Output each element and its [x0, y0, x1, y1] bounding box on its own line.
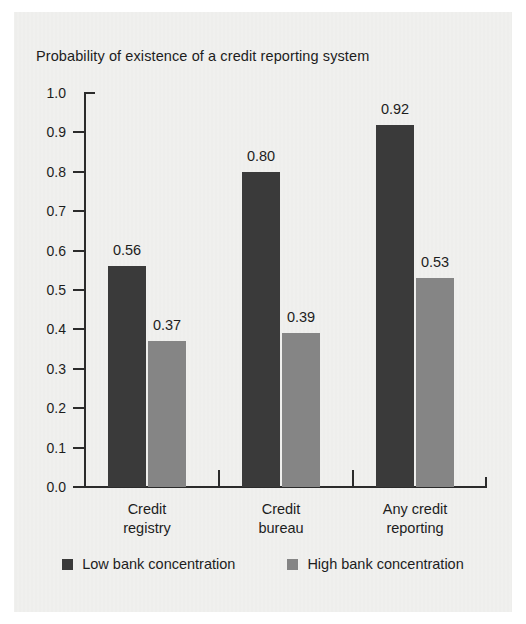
category-label-line: Credit	[258, 500, 303, 519]
category-label-line: Any credit	[383, 500, 447, 519]
y-axis-tick	[73, 486, 84, 488]
y-axis-tick	[73, 447, 84, 449]
y-axis-tick	[73, 407, 84, 409]
bar[interactable]	[416, 278, 454, 487]
legend-item-high[interactable]: High bank concentration	[287, 556, 463, 572]
bar[interactable]	[242, 172, 280, 487]
y-axis-tick-label: 0.7	[47, 203, 66, 219]
bar[interactable]	[108, 266, 146, 487]
category-label: Creditbureau	[258, 500, 303, 538]
bar-value-label: 0.39	[287, 309, 315, 325]
bar-value-label: 0.92	[381, 101, 409, 117]
legend-label-low: Low bank concentration	[82, 556, 235, 572]
y-axis-tick-label: 0.2	[47, 400, 66, 416]
category-label: Any creditreporting	[383, 500, 447, 538]
legend-label-high: High bank concentration	[307, 556, 463, 572]
bar-value-label: 0.80	[247, 148, 275, 164]
y-axis-tick-label: 0.0	[47, 479, 66, 495]
legend-swatch-high-icon	[287, 559, 298, 570]
y-axis-tick-label: 1.0	[47, 85, 66, 101]
y-axis-tick-label: 0.5	[47, 282, 66, 298]
y-axis-tick	[73, 131, 84, 133]
bar[interactable]	[282, 333, 320, 487]
category-label-line: reporting	[383, 519, 447, 538]
y-axis-tick	[73, 368, 84, 370]
y-axis-tick-label: 0.6	[47, 243, 66, 259]
category-label-line: registry	[123, 519, 171, 538]
legend-item-low[interactable]: Low bank concentration	[62, 556, 235, 572]
y-axis-tick-label: 0.3	[47, 361, 66, 377]
y-axis-tick-label: 0.4	[47, 321, 66, 337]
bar[interactable]	[376, 125, 414, 487]
category-label: Creditregistry	[123, 500, 171, 538]
y-axis-tick	[73, 250, 84, 252]
chart-legend: Low bank concentration High bank concent…	[0, 556, 526, 572]
y-axis-tick	[73, 328, 84, 330]
y-axis-tick	[73, 289, 84, 291]
bar-value-label: 0.37	[153, 317, 181, 333]
y-axis-tick-label: 0.9	[47, 124, 66, 140]
legend-swatch-low-icon	[62, 559, 73, 570]
bar-value-label: 0.56	[113, 242, 141, 258]
category-label-line: bureau	[258, 519, 303, 538]
y-axis-tick	[73, 210, 84, 212]
bar[interactable]	[148, 341, 186, 487]
y-axis-tick-label: 0.8	[47, 164, 66, 180]
plot-area	[84, 93, 486, 487]
chart-title: Probability of existence of a credit rep…	[36, 48, 369, 64]
y-axis-tick-label: 0.1	[47, 440, 66, 456]
chart-figure: Probability of existence of a credit rep…	[0, 0, 526, 624]
bar-value-label: 0.53	[421, 254, 449, 270]
y-axis-tick	[73, 171, 84, 173]
category-label-line: Credit	[123, 500, 171, 519]
